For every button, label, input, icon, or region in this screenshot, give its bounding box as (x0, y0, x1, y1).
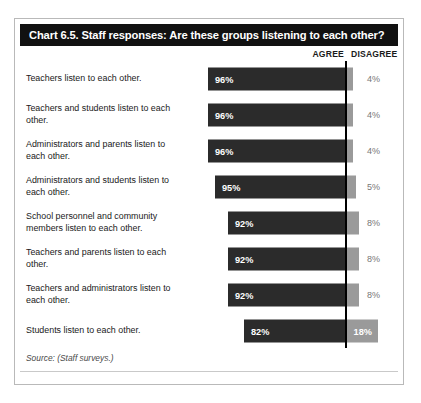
bar-group: 96% (208, 104, 353, 127)
row-label: Teachers listen to each other. (26, 73, 186, 85)
row-label: School personnel and community members l… (26, 211, 186, 234)
disagree-value-label: 4% (367, 110, 380, 120)
bar-group: 92% (228, 284, 359, 307)
bar-group: 82%18% (244, 320, 378, 343)
agree-value-label: 96% (215, 110, 233, 120)
agree-value-label: 96% (215, 146, 233, 156)
bar-group: 92% (228, 212, 359, 235)
column-header-disagree: DISAGREE (351, 49, 399, 59)
bar-group: 96% (208, 140, 353, 163)
row-label: Teachers and administrators listen to ea… (26, 283, 186, 306)
chart-title-bar: Chart 6.5. Staff responses: Are these gr… (20, 24, 398, 46)
disagree-value-label: 8% (367, 218, 380, 228)
disagree-value-label: 8% (367, 290, 380, 300)
chart-plot-area: AGREE DISAGREE Teachers listen to each o… (15, 47, 403, 347)
source-note: Source: (Staff surveys.) (26, 353, 114, 363)
bar-segment-agree: 92% (228, 248, 345, 271)
agree-disagree-divider (345, 61, 347, 348)
bar-segment-agree: 96% (208, 68, 345, 91)
bar-segment-agree: 92% (228, 284, 345, 307)
row-label: Teachers and students listen to each oth… (26, 103, 186, 126)
agree-value-label: 92% (235, 254, 253, 264)
column-header-agree: AGREE (287, 49, 344, 59)
agree-value-label: 92% (235, 218, 253, 228)
chart-frame: Chart 6.5. Staff responses: Are these gr… (14, 18, 404, 385)
bar-segment-agree: 96% (208, 140, 345, 163)
disagree-value-label: 8% (367, 254, 380, 264)
bar-segment-disagree (345, 212, 359, 235)
row-label: Teachers and parents listen to each othe… (26, 247, 186, 270)
row-label: Administrators and parents listen to eac… (26, 139, 186, 162)
agree-value-label: 92% (235, 290, 253, 300)
disagree-value-label: 5% (367, 182, 380, 192)
row-label: Students listen to each other. (26, 325, 186, 337)
chart-title: Chart 6.5. Staff responses: Are these gr… (29, 29, 384, 41)
bar-segment-agree: 82% (244, 320, 345, 343)
source-divider (20, 371, 398, 372)
disagree-value-label: 4% (367, 74, 380, 84)
bar-segment-agree: 95% (215, 176, 345, 199)
bar-group: 96% (208, 68, 353, 91)
bar-segment-disagree (345, 284, 359, 307)
row-label: Administrators and students listen to ea… (26, 175, 186, 198)
agree-value-label: 96% (215, 74, 233, 84)
bar-group: 92% (228, 248, 359, 271)
bar-segment-disagree (345, 248, 359, 271)
disagree-value-label: 18% (354, 326, 372, 336)
agree-value-label: 82% (251, 326, 269, 336)
bar-segment-disagree (345, 176, 356, 199)
agree-value-label: 95% (222, 182, 240, 192)
bar-group: 95% (215, 176, 356, 199)
disagree-value-label: 4% (367, 146, 380, 156)
bar-segment-agree: 96% (208, 104, 345, 127)
bar-segment-disagree: 18% (345, 320, 378, 343)
bar-segment-agree: 92% (228, 212, 345, 235)
